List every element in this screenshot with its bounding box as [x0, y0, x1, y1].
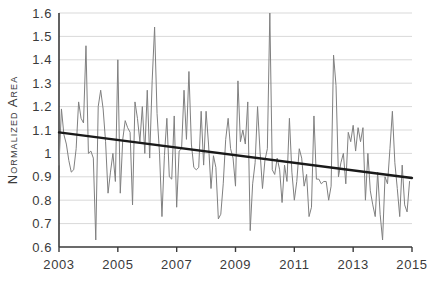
y-axis-tick-label: 0.9 — [32, 169, 52, 184]
y-axis-tick-label: 1 — [44, 146, 52, 161]
y-axis-tick-labels-group: 1.61.51.41.31.21.110.90.80.70.6 — [32, 6, 52, 255]
y-axis-tick-label: 1.6 — [32, 6, 52, 21]
x-axis-tick-label: 2013 — [338, 257, 369, 272]
x-axis-tick-label: 2003 — [43, 257, 74, 272]
y-axis-tick-label: 0.7 — [32, 216, 52, 231]
y-axis-tick-label: 1.4 — [32, 52, 52, 67]
y-axis-tick-label: 0.6 — [32, 240, 52, 255]
y-axis-tick-label: 1.1 — [32, 123, 52, 138]
y-axis-tick-label: 1.2 — [32, 99, 52, 114]
x-axis-tick-label: 2005 — [102, 257, 133, 272]
chart-container: 1.61.51.41.31.21.110.90.80.70.6 20032005… — [0, 0, 439, 285]
y-axis-tick-label: 0.8 — [32, 193, 52, 208]
y-axis-tick-label: 1.5 — [32, 29, 52, 44]
x-axis-tick-label: 2015 — [396, 257, 427, 272]
line-chart: 1.61.51.41.31.21.110.90.80.70.6 20032005… — [0, 0, 439, 285]
x-axis-tick-label: 2011 — [279, 257, 309, 272]
y-axis-tick-label: 1.3 — [32, 76, 52, 91]
x-axis-tick-label: 2009 — [220, 257, 251, 272]
y-axis-title: Normalized Area — [5, 76, 20, 184]
x-axis-tick-label: 2007 — [161, 257, 192, 272]
